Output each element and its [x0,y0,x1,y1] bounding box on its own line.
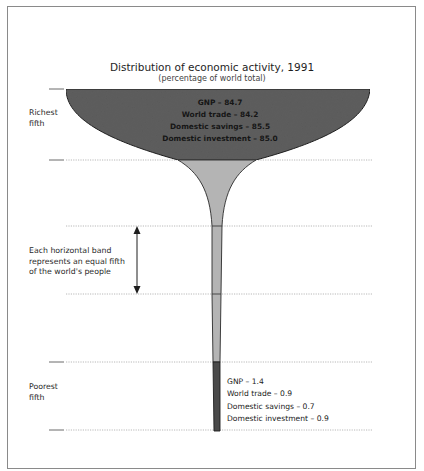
chart-subtitle: (percentage of world total) [0,74,424,83]
middle-fifths-shape [178,160,256,362]
richest-domestic-investment: Domestic investment – 85.0 [130,133,310,145]
richest-domestic-savings: Domestic savings – 85.5 [130,121,310,133]
poorest-domestic-savings: Domestic savings – 0.7 [227,401,329,413]
poorest-fifth-stats: GNP – 1.4 World trade – 0.9 Domestic sav… [227,376,329,425]
richest-gnp: GNP – 84.7 [130,97,310,109]
poorest-domestic-investment: Domestic investment – 0.9 [227,413,329,425]
richest-fifth-stats: GNP – 84.7 World trade – 84.2 Domestic s… [130,97,310,145]
poorest-gnp: GNP – 1.4 [227,376,329,388]
richest-fifth-label: Richest fifth [29,108,58,129]
poorest-fifth-label: Poorest fifth [29,382,58,403]
band-height-arrow-icon [134,226,141,294]
chart-title: Distribution of economic activity, 1991 [0,61,424,73]
band-explanation-note: Each horizontal band represents an equal… [29,246,125,278]
richest-world-trade: World trade – 84.2 [130,109,310,121]
poorest-world-trade: World trade – 0.9 [227,388,329,400]
poorest-fifth-shape [213,362,220,431]
